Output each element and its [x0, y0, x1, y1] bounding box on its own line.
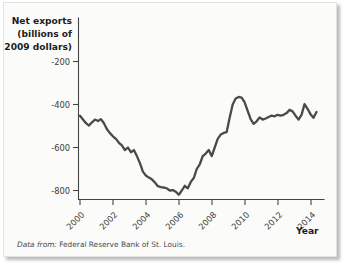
x-tick-label: 2000: [64, 210, 86, 232]
x-axis-title: Year: [295, 226, 319, 236]
x-tick-label: 2004: [130, 210, 152, 232]
x-tick-label: 2012: [262, 210, 284, 232]
y-axis-title-line-1: Net exports: [12, 16, 72, 26]
source-note: Data from: Federal Reserve Bank of St. L…: [17, 240, 185, 249]
y-axis-title-line-2: (billions of: [17, 29, 73, 39]
y-tick-label: -400: [51, 100, 70, 110]
y-axis-title-line-3: 2009 dollars): [4, 42, 72, 52]
x-tick-label: 2010: [229, 210, 251, 232]
x-tick-label: 2002: [97, 210, 119, 232]
y-tick-label: -200: [51, 57, 70, 67]
net-exports-line-chart: Net exports (billions of 2009 dollars) -…: [4, 3, 338, 258]
y-tick-label: -800: [51, 186, 70, 196]
x-tick-label: 2006: [163, 210, 185, 232]
figure-card: Net exports (billions of 2009 dollars) -…: [3, 2, 337, 257]
y-axis-ticks: -200 -400 -600 -800: [51, 57, 78, 196]
source-text: Federal Reserve Bank of St. Louis.: [59, 240, 185, 249]
x-axis-ticks: 2000 2002 2004 2006 2008 2010 2012 2014: [64, 200, 317, 232]
net-exports-series: [80, 97, 317, 195]
x-tick-label: 2008: [196, 210, 218, 232]
y-tick-label: -600: [51, 143, 70, 153]
source-prefix: Data from:: [17, 240, 57, 249]
